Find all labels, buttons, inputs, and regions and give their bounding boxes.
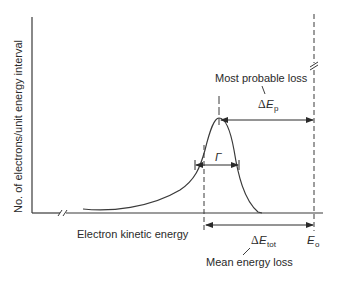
svg-text:E: E: [266, 98, 274, 110]
e0-label: E o: [307, 234, 320, 249]
x-axis-label: Electron kinetic energy: [77, 228, 189, 240]
delta-ep-label: Δ E p: [258, 97, 279, 113]
svg-text:Δ: Δ: [258, 97, 266, 111]
most-probable-loss-label: Most probable loss: [215, 72, 308, 84]
mean-energy-loss-label: Mean energy loss: [206, 256, 293, 268]
mean-energy-loss-leader: [243, 248, 250, 255]
svg-text:p: p: [274, 104, 279, 113]
y-axis-label: No. of electrons/unit energy interval: [12, 40, 24, 213]
gamma-label: Γ: [215, 151, 222, 163]
svg-text:E: E: [307, 234, 315, 246]
svg-text:o: o: [315, 240, 320, 249]
e0-break-mark: [309, 62, 319, 70]
delta-etot-label: Δ E tot: [251, 233, 277, 249]
svg-text:Δ: Δ: [251, 233, 259, 247]
svg-text:tot: tot: [267, 240, 277, 249]
svg-text:E: E: [259, 234, 267, 246]
energy-loss-diagram: No. of electrons/unit energy interval El…: [0, 0, 337, 283]
most-probable-loss-leader: [262, 86, 265, 94]
